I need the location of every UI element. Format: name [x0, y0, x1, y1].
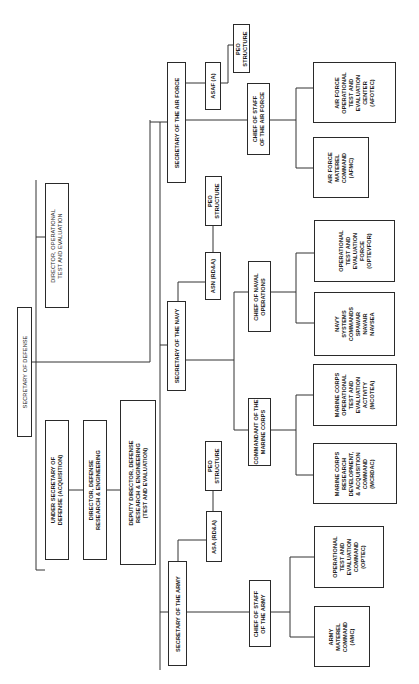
node-peo-air-force: PEO STRUCTURE [233, 24, 250, 73]
node-label: CHIEF OF STAFF OF THE AIR FORCE [252, 92, 266, 146]
node-label: PEO STRUCTURE [235, 31, 249, 66]
node-mcrdac: MARINE CORPS RESEARCH DEVELOPMENT, & ACQ… [313, 443, 397, 504]
node-label: SECRETARY OF THE ARMY [174, 576, 181, 652]
node-label: SECRETARY OF THE AIR FORCE [173, 77, 180, 168]
node-label: ASAF (A) [210, 73, 217, 98]
node-label: AIR FORCE OPERATIONAL TEST AND EVALUATIO… [334, 72, 376, 113]
node-label: ASN (RD&A) [210, 259, 217, 293]
node-label: UNDER SECRETARY OF DEFENSE (ACQUISITION) [50, 455, 64, 525]
node-secretary-army: SECRETARY OF THE ARMY [168, 561, 187, 666]
node-label: MARINE CORPS RESEARCH DEVELOPMENT, & ACQ… [334, 451, 376, 496]
node-director-operational-test: DIRECTOR, OPERATIONAL TEST AND EVALUATIO… [45, 183, 69, 308]
node-label: ASA (RD&A) [211, 519, 218, 553]
node-label: NAVY SYSTEMS COMMANDS SPAWAR NAVAIR NAVS… [334, 307, 376, 341]
node-secretary-navy: SECRETARY OF THE NAVY [167, 301, 186, 391]
node-label: DIRECTOR, OPERATIONAL TEST AND EVALUATIO… [50, 209, 64, 283]
node-label: PEO STRUCTURE [207, 448, 221, 483]
node-director-ddre: DIRECTOR, DEFENSE RESEARCH & ENGINEERING [83, 420, 107, 560]
node-mcotea: MARINE CORPS OPERATIONAL TEST AND EVALUA… [313, 364, 397, 426]
node-optec: OPERATIONAL TEST AND EVALUATION COMMAND … [314, 526, 384, 588]
node-label: CHIEF OF STAFF OF THE ARMY [253, 590, 267, 637]
node-peo-army: PEO STRUCTURE [205, 441, 222, 491]
node-secretary-air-force: SECRETARY OF THE AIR FORCE [167, 62, 186, 183]
node-under-secretary-acquisition: UNDER SECRETARY OF DEFENSE (ACQUISITION) [45, 420, 69, 560]
node-label: SECRETARY OF DEFENSE [21, 336, 28, 409]
node-label: DEPUTY DIRECTOR, DEFENSE RESEARCH & ENGI… [128, 440, 149, 525]
node-navy-systems-commands: NAVY SYSTEMS COMMANDS SPAWAR NAVAIR NAVS… [314, 292, 395, 356]
node-secretary-of-defense: SECRETARY OF DEFENSE [17, 307, 32, 437]
node-label: DIRECTOR, DEFENSE RESEARCH & ENGINEERING [88, 450, 102, 530]
node-label: COMMANDANT OF THE MARINE CORPS [253, 399, 267, 464]
node-label: OPERATIONAL TEST AND EVALUATION COMMAND … [332, 536, 367, 577]
node-label: AIR FORCE MATEREL COMMAND (AFMC) [327, 152, 355, 184]
org-chart: SECRETARY OF DEFENSE UNDER SECRETARY OF … [0, 0, 419, 684]
node-asa-rda: ASA (RD&A) [206, 511, 222, 562]
node-commandant-marine-corps: COMMANDANT OF THE MARINE CORPS [248, 398, 271, 466]
node-label: CHIEF OF NAVAL OPERATIONS [253, 273, 267, 321]
node-label: SECRETARY OF THE NAVY [173, 309, 180, 384]
node-afmc: AIR FORCE MATEREL COMMAND (AFMC) [313, 137, 369, 198]
node-afotec: AIR FORCE OPERATIONAL TEST AND EVALUATIO… [313, 62, 396, 123]
node-chief-naval-operations: CHIEF OF NAVAL OPERATIONS [248, 261, 271, 332]
node-label: ARMY MATEREL COMMAND (AMC) [328, 621, 356, 652]
node-chief-of-staff-air-force: CHIEF OF STAFF OF THE AIR FORCE [247, 83, 270, 155]
node-asaf: ASAF (A) [205, 62, 221, 110]
node-deputy-director-ddre-te: DEPUTY DIRECTOR, DEFENSE RESEARCH & ENGI… [120, 400, 156, 565]
node-label: MARINE CORPS OPERATIONAL TEST AND EVALUA… [334, 373, 376, 418]
node-amc: ARMY MATEREL COMMAND (AMC) [314, 606, 370, 667]
node-asn-rda: ASN (RD&A) [205, 252, 221, 300]
node-label: OPERATIONAL TEST AND EVALUATION FORCE (O… [337, 230, 372, 271]
node-chief-of-staff-army: CHIEF OF STAFF OF THE ARMY [249, 580, 271, 647]
node-peo-navy: PEO STRUCTURE [205, 176, 222, 226]
node-optevfor: OPERATIONAL TEST AND EVALUATION FORCE (O… [314, 220, 395, 282]
node-label: PEO STRUCTURE [207, 183, 221, 218]
